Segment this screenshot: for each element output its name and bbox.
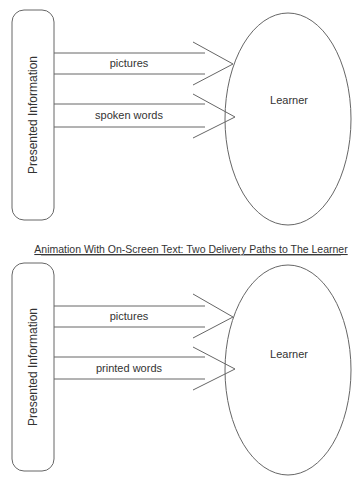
learner-label: Learner [270, 348, 308, 360]
presented-information-label: Presented Information [26, 308, 40, 426]
diagram-title: Animation With On-Screen Text: Two Deliv… [34, 243, 348, 255]
path-label-pictures: pictures [110, 310, 149, 322]
learner-ellipse [225, 13, 351, 225]
arrowhead-spoken [193, 94, 235, 138]
diagram-top [12, 10, 351, 225]
learner-ellipse [225, 265, 351, 475]
learner-label: Learner [270, 94, 308, 106]
path-label-pictures: pictures [110, 57, 149, 69]
path-label-spoken-words: spoken words [95, 109, 163, 121]
arrowhead-pictures [193, 294, 233, 338]
diagram-canvas: Presented Information pictures spoken wo… [0, 0, 360, 482]
presented-information-label: Presented Information [26, 56, 40, 174]
diagram-bottom [12, 263, 351, 475]
path-label-printed-words: printed words [96, 362, 163, 374]
arrowhead-pictures [193, 42, 233, 85]
arrowhead-printed [193, 347, 235, 390]
